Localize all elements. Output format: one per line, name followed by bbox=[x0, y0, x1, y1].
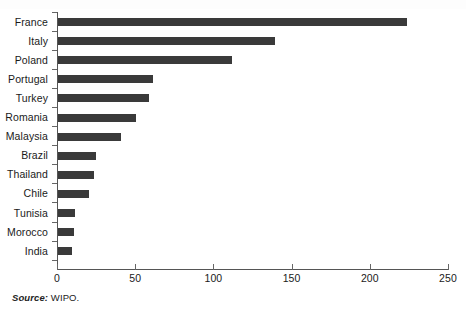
x-axis-tick-label-100: 100 bbox=[193, 272, 233, 284]
bar-india bbox=[58, 247, 72, 255]
category-label-tunisia: Tunisia bbox=[0, 207, 52, 219]
y-axis-tick bbox=[52, 164, 57, 165]
category-label-india: India bbox=[0, 245, 52, 257]
x-axis-tick bbox=[370, 264, 371, 270]
bar-portugal bbox=[58, 75, 153, 83]
bar-turkey bbox=[58, 94, 149, 102]
category-label-portugal: Portugal bbox=[0, 73, 52, 85]
x-axis-tick-label-50: 50 bbox=[115, 272, 155, 284]
bar-tunisia bbox=[58, 209, 75, 217]
category-label-brazil: Brazil bbox=[0, 149, 52, 161]
y-axis-tick bbox=[52, 12, 57, 13]
bar-thailand bbox=[58, 171, 94, 179]
category-label-romania: Romania bbox=[0, 111, 52, 123]
y-axis-tick bbox=[52, 50, 57, 51]
y-axis-tick bbox=[52, 202, 57, 203]
x-axis-tick-label-250: 250 bbox=[428, 272, 466, 284]
x-axis-tick bbox=[292, 264, 293, 270]
x-axis-tick bbox=[448, 264, 449, 270]
category-label-turkey: Turkey bbox=[0, 92, 52, 104]
bar-france bbox=[58, 18, 407, 26]
bar-brazil bbox=[58, 152, 96, 160]
category-label-malaysia: Malaysia bbox=[0, 130, 52, 142]
bar-morocco bbox=[58, 228, 74, 236]
y-axis-tick bbox=[52, 31, 57, 32]
bar-chile bbox=[58, 190, 89, 198]
y-axis-tick bbox=[52, 260, 57, 261]
bar-malaysia bbox=[58, 133, 121, 141]
y-axis-tick bbox=[52, 126, 57, 127]
y-axis-tick bbox=[52, 222, 57, 223]
category-label-morocco: Morocco bbox=[0, 226, 52, 238]
category-label-poland: Poland bbox=[0, 54, 52, 66]
x-axis-tick-label-150: 150 bbox=[272, 272, 312, 284]
x-axis-line bbox=[57, 269, 449, 270]
bar-chart-figure: FranceItalyPolandPortugalTurkeyRomaniaMa… bbox=[0, 0, 466, 317]
x-axis-tick bbox=[213, 264, 214, 270]
source-label: Source: bbox=[12, 292, 48, 303]
category-label-italy: Italy bbox=[0, 35, 52, 47]
bar-poland bbox=[58, 56, 232, 64]
y-axis-tick bbox=[52, 241, 57, 242]
x-axis-tick bbox=[135, 264, 136, 270]
x-axis-tick-label-200: 200 bbox=[350, 272, 390, 284]
y-axis-tick bbox=[52, 183, 57, 184]
bar-romania bbox=[58, 114, 136, 122]
category-label-chile: Chile bbox=[0, 187, 52, 199]
y-axis-tick bbox=[52, 69, 57, 70]
category-label-france: France bbox=[0, 16, 52, 28]
bar-italy bbox=[58, 37, 275, 45]
x-axis-tick bbox=[57, 264, 58, 270]
y-axis-tick bbox=[52, 88, 57, 89]
source-note: Source: WIPO. bbox=[12, 292, 79, 303]
source-value: WIPO. bbox=[51, 292, 79, 303]
y-axis-tick bbox=[52, 107, 57, 108]
x-axis-tick-label-0: 0 bbox=[37, 272, 77, 284]
plot-area: FranceItalyPolandPortugalTurkeyRomaniaMa… bbox=[0, 0, 466, 317]
y-axis-tick bbox=[52, 145, 57, 146]
category-label-thailand: Thailand bbox=[0, 168, 52, 180]
